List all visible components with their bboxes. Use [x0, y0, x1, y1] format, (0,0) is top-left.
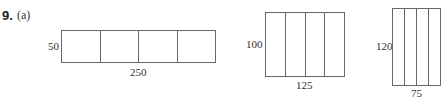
height-label: 100	[246, 38, 263, 50]
rectangle	[392, 8, 441, 86]
cell	[139, 31, 178, 62]
cell	[405, 9, 417, 85]
height-label: 120	[376, 40, 393, 52]
width-label: 250	[130, 66, 147, 78]
cell	[417, 9, 429, 85]
cell	[266, 13, 286, 76]
problem-number: 9.	[2, 8, 13, 23]
height-label: 50	[48, 40, 59, 52]
cell	[101, 31, 140, 62]
problem-part: (a)	[17, 8, 30, 23]
cell	[393, 9, 405, 85]
rectangle	[61, 30, 216, 63]
cell	[62, 31, 101, 62]
rectangle	[265, 12, 345, 77]
cell	[178, 31, 216, 62]
cell	[325, 13, 344, 76]
cell	[429, 9, 440, 85]
width-label: 125	[296, 79, 313, 91]
cell	[306, 13, 326, 76]
width-label: 75	[411, 87, 422, 99]
cell	[286, 13, 306, 76]
